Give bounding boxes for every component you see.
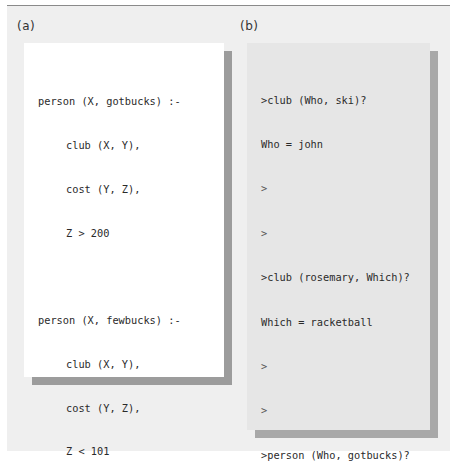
panel-b-label: (b) bbox=[240, 19, 258, 33]
query-line: >person (Who, gotbucks)? bbox=[261, 448, 430, 463]
query-line: >club (rosemary, Which)? bbox=[261, 270, 430, 285]
blank-line bbox=[38, 269, 224, 284]
query-session: >club (Who, ski)? Who = john > > >club (… bbox=[261, 63, 430, 463]
rule-body-line: Z < 101 bbox=[38, 444, 224, 459]
answer-line: Which = racketball bbox=[261, 315, 430, 330]
rule-head: person (X, gotbucks) :- bbox=[38, 94, 224, 109]
prompt-line: > bbox=[261, 403, 430, 418]
answer-line: Who = john bbox=[261, 137, 430, 152]
rule-body-line: club (X, Y), bbox=[38, 138, 224, 153]
rule-head: person (X, fewbucks) :- bbox=[38, 313, 224, 328]
prolog-program-panel: person (X, gotbucks) :- club (X, Y), cos… bbox=[24, 43, 224, 377]
rule-body-line: Z > 200 bbox=[38, 226, 224, 241]
prolog-program: person (X, gotbucks) :- club (X, Y), cos… bbox=[38, 65, 224, 463]
rule-body-line: club (X, Y), bbox=[38, 357, 224, 372]
prompt-line: > bbox=[261, 226, 430, 241]
prompt-line: > bbox=[261, 359, 430, 374]
rule-body-line: cost (Y, Z), bbox=[38, 401, 224, 416]
prompt-line: > bbox=[261, 181, 430, 196]
query-session-panel: >club (Who, ski)? Who = john > > >club (… bbox=[247, 43, 430, 430]
panel-a-label: (a) bbox=[17, 19, 35, 33]
rule-body-line: cost (Y, Z), bbox=[38, 182, 224, 197]
query-line: >club (Who, ski)? bbox=[261, 93, 430, 108]
